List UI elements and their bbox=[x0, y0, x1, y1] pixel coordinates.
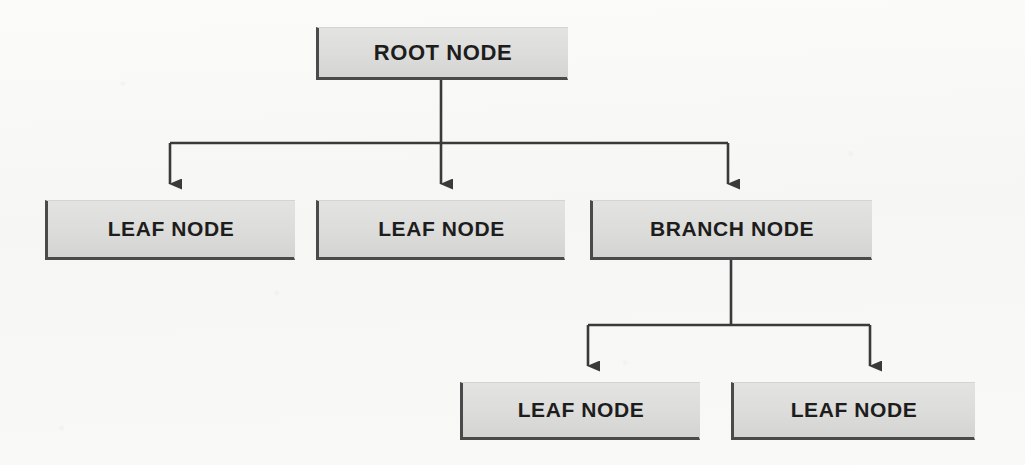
tree-diagram-canvas: ROOT NODE LEAF NODE LEAF NODE BRANCH NOD… bbox=[0, 0, 1025, 465]
node-label: ROOT NODE bbox=[374, 40, 513, 66]
node-label: BRANCH NODE bbox=[650, 217, 814, 241]
node-leaf-node-3[interactable]: LEAF NODE bbox=[460, 382, 700, 440]
node-root-node[interactable]: ROOT NODE bbox=[316, 27, 568, 80]
node-branch-node[interactable]: BRANCH NODE bbox=[590, 200, 872, 260]
node-label: LEAF NODE bbox=[108, 217, 235, 241]
node-label: LEAF NODE bbox=[518, 398, 645, 422]
node-leaf-node-4[interactable]: LEAF NODE bbox=[731, 382, 975, 440]
node-leaf-node-2[interactable]: LEAF NODE bbox=[316, 200, 565, 260]
node-leaf-node-1[interactable]: LEAF NODE bbox=[45, 200, 295, 260]
node-label: LEAF NODE bbox=[791, 398, 918, 422]
node-label: LEAF NODE bbox=[378, 217, 505, 241]
